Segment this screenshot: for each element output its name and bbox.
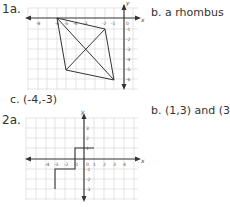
svg-text:-1: -1 [86,167,91,172]
svg-text:-2: -2 [86,177,91,182]
svg-text:-3: -3 [54,162,59,167]
svg-text:2: 2 [86,136,89,141]
svg-text:4: 4 [123,162,126,167]
svg-text:3: 3 [86,126,89,131]
svg-text:-2: -2 [64,162,69,167]
svg-text:2: 2 [103,162,106,167]
svg-text:-3: -3 [86,187,91,192]
svg-text:x: x [140,157,145,164]
svg-text:1: 1 [93,162,96,167]
svg-text:3: 3 [113,162,116,167]
svg-text:y: y [80,108,85,116]
svg-text:-4: -4 [45,162,50,167]
graph-2-path: y x -4-3-2 -10 1234 321 -1-2-3 [0,0,230,207]
